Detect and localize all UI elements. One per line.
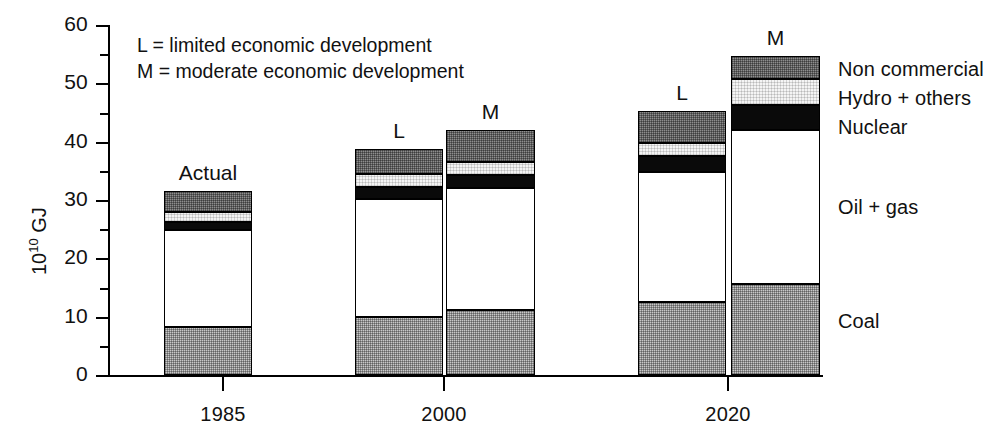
legend-label-oil-gas: Oil + gas bbox=[838, 196, 918, 219]
note-line-1: L = limited economic development bbox=[137, 32, 464, 58]
y-tick-major bbox=[96, 317, 110, 319]
x-tick bbox=[222, 377, 224, 391]
x-tick-label: 2020 bbox=[673, 403, 783, 426]
segment-hydro-others bbox=[355, 174, 443, 187]
segment-nuclear bbox=[638, 156, 726, 172]
stacked-bar-chart: 1010 GJ 0102030405060 198520002020 L = l… bbox=[0, 0, 1000, 436]
y-tick-major bbox=[96, 200, 110, 202]
legend-label-hydro-others: Hydro + others bbox=[838, 87, 971, 110]
x-tick bbox=[443, 377, 445, 391]
y-tick-label: 40 bbox=[44, 129, 88, 153]
segment-coal bbox=[164, 327, 252, 375]
segment-hydro-others bbox=[446, 162, 535, 175]
segment-coal bbox=[731, 284, 820, 375]
x-tick-label: 1985 bbox=[168, 403, 278, 426]
y-tick-minor bbox=[100, 54, 110, 56]
segment-hydro-others bbox=[638, 143, 726, 156]
segment-coal bbox=[355, 317, 443, 375]
segment-nuclear bbox=[731, 105, 820, 130]
y-axis-title-exponent: 10 bbox=[26, 238, 41, 252]
segment-nuclear bbox=[446, 175, 535, 188]
y-tick-major bbox=[96, 25, 110, 27]
segment-oil-gas bbox=[355, 199, 443, 317]
segment-non-commercial bbox=[638, 111, 726, 144]
stacked-bar bbox=[446, 130, 535, 375]
y-tick-minor bbox=[100, 113, 110, 115]
notes-block: L = limited economic development M = mod… bbox=[137, 32, 464, 84]
y-tick-label: 30 bbox=[44, 187, 88, 211]
y-tick-label: 10 bbox=[44, 304, 88, 328]
segment-non-commercial bbox=[731, 56, 820, 79]
legend-label-coal: Coal bbox=[838, 310, 880, 333]
segment-coal bbox=[446, 310, 535, 375]
y-tick-label: 0 bbox=[44, 362, 88, 386]
bar-caption: Actual bbox=[164, 161, 252, 185]
stacked-bar bbox=[638, 111, 726, 375]
y-tick-label: 20 bbox=[44, 245, 88, 269]
segment-oil-gas bbox=[731, 130, 820, 284]
y-axis-title-unit: GJ bbox=[28, 207, 50, 238]
y-tick-minor bbox=[100, 346, 110, 348]
segment-non-commercial bbox=[164, 191, 252, 212]
stacked-bar bbox=[164, 191, 252, 375]
y-tick-minor bbox=[100, 229, 110, 231]
segment-oil-gas bbox=[638, 172, 726, 302]
legend-label-non-commercial: Non commercial bbox=[838, 58, 984, 81]
y-tick-minor bbox=[100, 288, 110, 290]
y-tick-major bbox=[96, 142, 110, 144]
segment-oil-gas bbox=[446, 188, 535, 310]
segment-coal bbox=[638, 302, 726, 375]
y-tick-major bbox=[96, 83, 110, 85]
y-tick-minor bbox=[100, 171, 110, 173]
bar-caption: L bbox=[638, 81, 726, 105]
y-tick-label: 60 bbox=[44, 12, 88, 36]
segment-hydro-others bbox=[164, 212, 252, 221]
segment-oil-gas bbox=[164, 230, 252, 326]
x-tick-label: 2000 bbox=[389, 403, 499, 426]
x-tick bbox=[727, 377, 729, 391]
stacked-bar bbox=[731, 56, 820, 375]
segment-non-commercial bbox=[355, 149, 443, 174]
segment-nuclear bbox=[355, 187, 443, 199]
note-line-2: M = moderate economic development bbox=[137, 58, 464, 84]
stacked-bar bbox=[355, 149, 443, 375]
bar-caption: M bbox=[446, 100, 535, 124]
y-tick-major bbox=[96, 375, 110, 377]
segment-nuclear bbox=[164, 222, 252, 231]
segment-hydro-others bbox=[731, 79, 820, 106]
segment-non-commercial bbox=[446, 130, 535, 162]
legend-label-nuclear: Nuclear bbox=[838, 116, 908, 139]
x-axis-line bbox=[108, 375, 823, 377]
bar-caption: L bbox=[355, 119, 443, 143]
y-tick-major bbox=[96, 258, 110, 260]
y-tick-label: 50 bbox=[44, 70, 88, 94]
bar-caption: M bbox=[731, 26, 820, 50]
